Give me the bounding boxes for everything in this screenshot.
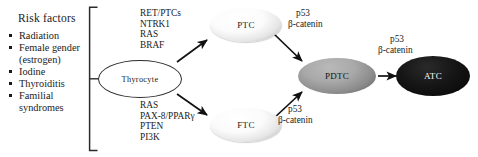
square-bullet-icon	[9, 34, 12, 37]
node-label: FTC	[237, 120, 254, 130]
risk-factors-panel: Risk factors Radiation Female gender (es…	[8, 8, 90, 114]
list-item: Female gender (estrogen)	[8, 42, 90, 65]
gene-label: PTEN	[140, 121, 195, 132]
risk-factor-label-continuation: syndromes	[19, 102, 90, 114]
square-bullet-icon	[9, 70, 12, 73]
node-label: PTC	[237, 20, 254, 30]
gene-label: PAX-8/PPARγ	[140, 111, 195, 122]
edge-label-ptc-pdtc-p53: p53	[296, 8, 310, 19]
edge-label-pdtc-atc-bcatenin: β-catenin	[378, 45, 413, 56]
square-bullet-icon	[9, 94, 12, 97]
gene-list-ptc-pathway: RET/PTCs NTRK1 RAS BRAF	[140, 8, 181, 50]
arrow-thyrocyte-to-ptc	[177, 40, 207, 62]
risk-factor-label-continuation: (estrogen)	[19, 54, 90, 66]
edge-label-ptc-pdtc-bcatenin: β-catenin	[288, 19, 323, 30]
gene-label: RET/PTCs	[140, 8, 181, 19]
risk-factor-label: Familial	[19, 90, 53, 101]
arrow-ptc-to-pdtc	[273, 33, 302, 61]
risk-factor-label: Female gender	[19, 42, 80, 53]
list-item: Iodine	[8, 66, 90, 78]
gene-label: PI3K	[140, 132, 195, 143]
edge-label-ftc-pdtc-bcatenin: β-catenin	[278, 115, 313, 126]
list-item: Thyroiditis	[8, 78, 90, 90]
node-label: PDTC	[325, 71, 349, 81]
node-atc: ATC	[396, 56, 470, 96]
node-thyrocyte: Thyrocyte	[98, 60, 182, 98]
risk-factor-label: Thyroiditis	[19, 78, 65, 89]
list-item: Familial syndromes	[8, 90, 90, 113]
square-bullet-icon	[9, 82, 12, 85]
gene-label: NTRK1	[140, 19, 181, 30]
risk-factor-label: Radiation	[19, 30, 59, 41]
node-pdtc: PDTC	[298, 58, 376, 94]
gene-list-ftc-pathway: RAS PAX-8/PPARγ PTEN PI3K	[140, 100, 195, 142]
gene-label: RAS	[140, 100, 195, 111]
node-ptc: PTC	[210, 8, 282, 42]
node-label: ATC	[424, 71, 442, 81]
square-bullet-icon	[9, 46, 12, 49]
risk-factors-title: Risk factors	[18, 12, 90, 24]
risk-factor-label: Iodine	[19, 66, 45, 77]
node-ftc: FTC	[210, 108, 282, 142]
thyroid-cancer-pathway-diagram: Risk factors Radiation Female gender (es…	[0, 0, 478, 157]
gene-label: RAS	[140, 29, 181, 40]
edge-label-ftc-pdtc-p53: p53	[288, 104, 302, 115]
risk-factors-list: Radiation Female gender (estrogen) Iodin…	[8, 30, 90, 113]
node-label: Thyrocyte	[122, 75, 159, 84]
edge-label-pdtc-atc-p53: p53	[390, 34, 404, 45]
list-item: Radiation	[8, 30, 90, 42]
gene-label: BRAF	[140, 40, 181, 51]
